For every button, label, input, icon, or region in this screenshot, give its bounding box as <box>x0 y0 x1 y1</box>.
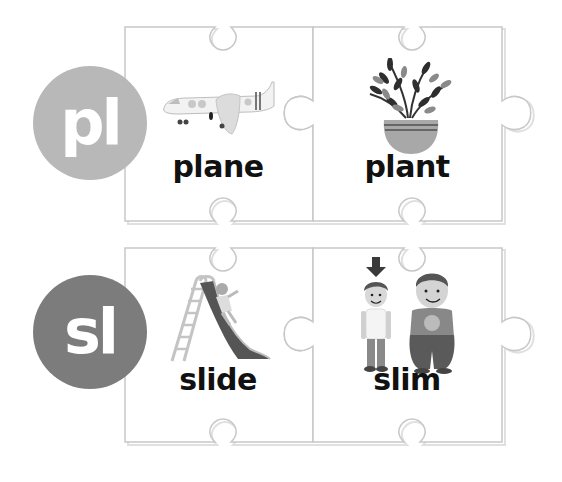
blend-label: pl <box>60 92 120 154</box>
blend-circle-pl: pl <box>33 66 147 180</box>
blend-label: sl <box>64 301 116 363</box>
blend-circle-sl: sl <box>33 275 147 389</box>
word-slim: slim <box>332 365 482 395</box>
word-plane: plane <box>143 152 293 182</box>
potted-plant-icon <box>368 58 454 156</box>
airplane-icon <box>158 78 276 140</box>
blend-row-pl: pl plane <box>0 0 562 240</box>
arrow-down-icon <box>366 257 386 277</box>
slide-icon <box>170 273 272 365</box>
word-slide: slide <box>143 365 293 395</box>
word-plant: plant <box>332 152 482 182</box>
slim-boy-icon <box>356 255 460 377</box>
blend-row-sl: sl slide <box>0 221 562 482</box>
